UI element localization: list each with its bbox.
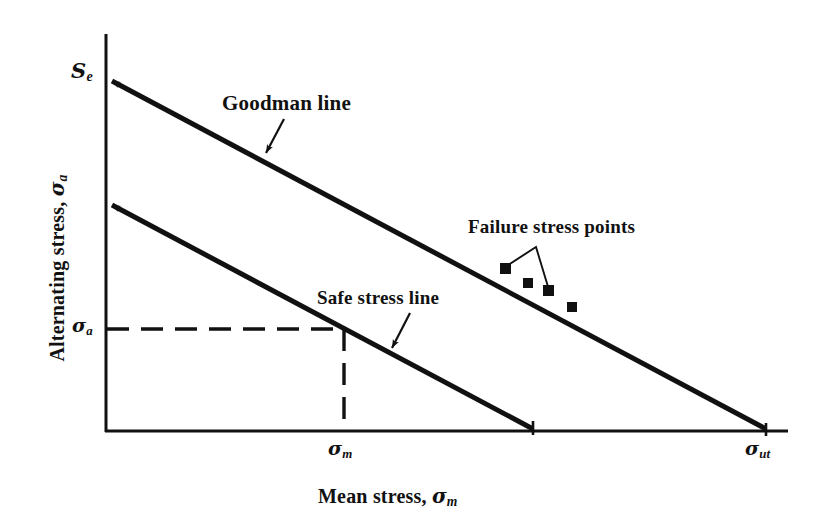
- failure-point-marker: [567, 302, 577, 312]
- x-tick-label-mean-stress: σm: [328, 437, 352, 462]
- mean-stress-symbol: σ: [328, 437, 342, 459]
- x-axis-title-symbol: σ: [432, 484, 447, 508]
- goodman-line-label: Goodman line: [222, 91, 351, 116]
- x-axis-title-subscript: m: [447, 494, 458, 509]
- x-tick-label-ultimate-tensile-strength: σut: [745, 437, 770, 462]
- y-tick-label-endurance-limit: Se: [71, 58, 93, 85]
- ultimate-strength-subscript: ut: [759, 446, 770, 461]
- safe-line-label-arrow: [392, 313, 410, 348]
- x-axis-title: Mean stress, σm: [318, 484, 458, 510]
- y-axis-title-symbol: σ: [45, 181, 69, 196]
- alternating-stress-subscript: a: [86, 323, 93, 338]
- y-axis-title: Alternating stress, σa: [45, 103, 71, 433]
- x-axis-title-text: Mean stress,: [318, 485, 432, 507]
- endurance-limit-symbol: S: [71, 58, 86, 83]
- y-axis-title-text: Alternating stress,: [46, 196, 68, 361]
- goodman-label-arrow: [266, 119, 284, 153]
- alternating-stress-symbol: σ: [72, 314, 86, 336]
- mean-stress-subscript: m: [342, 446, 352, 461]
- y-tick-label-alternating-stress: σa: [72, 314, 93, 339]
- y-axis-title-subscript: a: [55, 174, 70, 181]
- safe-stress-line-label: Safe stress line: [317, 287, 439, 309]
- ultimate-strength-symbol: σ: [745, 437, 759, 459]
- goodman-diagram-figure: Goodman line Failure stress points Safe …: [0, 0, 825, 532]
- safe-stress-line: [112, 205, 533, 429]
- endurance-limit-subscript: e: [86, 68, 93, 84]
- failure-stress-points-label: Failure stress points: [468, 216, 635, 238]
- failure-point-marker: [523, 278, 533, 288]
- diagram-canvas: [0, 0, 825, 532]
